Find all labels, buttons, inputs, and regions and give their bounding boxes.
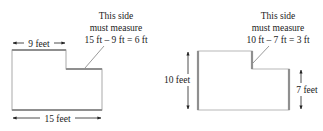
- left-callout-leader: [85, 46, 104, 68]
- nine-feet-label: 9 feet: [28, 39, 50, 49]
- ten-feet-label: 10 feet: [164, 75, 190, 85]
- right-callout-line3: 10 ft – 7 ft = 3 ft: [246, 35, 310, 45]
- right-callout-line1: This side: [261, 11, 296, 21]
- seven-feet-label: 7 feet: [296, 85, 318, 95]
- right-figure: 10 feet 7 feet This side must measure 10…: [164, 11, 318, 110]
- right-callout-line2: must measure: [252, 23, 305, 33]
- fifteen-feet-label: 15 feet: [44, 114, 70, 124]
- left-figure: 9 feet 15 feet This side must measure 15…: [12, 11, 148, 124]
- left-shape-outline: [12, 50, 102, 110]
- diagram-canvas: 9 feet 15 feet This side must measure 15…: [0, 0, 323, 131]
- right-callout-leader: [253, 46, 269, 63]
- left-callout-line2: must measure: [90, 23, 143, 33]
- left-callout-line3: 15 ft – 9 ft = 6 ft: [84, 35, 148, 45]
- left-callout-line1: This side: [99, 11, 134, 21]
- right-shape-outline: [198, 51, 289, 110]
